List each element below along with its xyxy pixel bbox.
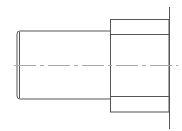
technical-drawing [0,0,182,131]
